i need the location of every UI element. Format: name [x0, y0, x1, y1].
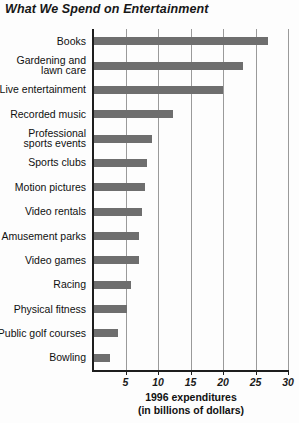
- x-tick-mark: [126, 371, 127, 375]
- x-tick-mark: [288, 371, 289, 375]
- category-label: Racing: [0, 279, 86, 290]
- category-label: Bowling: [0, 352, 86, 363]
- x-tick-label: 20: [217, 376, 229, 388]
- bar: [93, 281, 131, 289]
- gridline: [158, 29, 159, 370]
- bar: [93, 232, 139, 240]
- category-label: Professional sports events: [0, 128, 86, 149]
- category-label: Public golf courses: [0, 328, 86, 339]
- gridline: [223, 29, 224, 370]
- bar: [93, 256, 139, 264]
- x-tick-mark: [158, 371, 159, 375]
- category-label: Physical fitness: [0, 304, 86, 315]
- gridline: [126, 29, 127, 370]
- bar: [93, 159, 147, 167]
- category-label: Video games: [0, 255, 86, 266]
- bar: [93, 208, 142, 216]
- x-tick-label: 5: [123, 376, 129, 388]
- category-axis-labels: BooksGardening and lawn careLive enterta…: [0, 29, 89, 370]
- bar: [93, 37, 268, 45]
- bar: [93, 62, 243, 70]
- gridline: [191, 29, 192, 370]
- category-label: Gardening and lawn care: [0, 55, 86, 76]
- category-label: Video rentals: [0, 206, 86, 217]
- x-tick-mark: [223, 371, 224, 375]
- bar: [93, 135, 152, 143]
- x-tick-label: 30: [282, 376, 294, 388]
- x-tick-label: 15: [185, 376, 197, 388]
- gridline: [288, 29, 289, 370]
- x-axis-caption-line1: 1996 expenditures: [93, 391, 289, 404]
- y-axis-line: [92, 29, 94, 372]
- bar: [93, 183, 145, 191]
- category-label: Amusement parks: [0, 231, 86, 242]
- gridline: [256, 29, 257, 370]
- bar: [93, 305, 127, 313]
- chart-title: What We Spend on Entertainment: [5, 2, 208, 16]
- category-label: Motion pictures: [0, 182, 86, 193]
- plot-area: [93, 29, 288, 370]
- x-tick-mark: [256, 371, 257, 375]
- x-axis-caption-line2: (in billions of dollars): [93, 404, 289, 417]
- x-axis-caption: 1996 expenditures (in billions of dollar…: [93, 391, 289, 417]
- category-label: Recorded music: [0, 109, 86, 120]
- bar: [93, 329, 118, 337]
- x-tick-label: 10: [152, 376, 164, 388]
- category-label: Books: [0, 36, 86, 47]
- category-label: Live entertainment: [0, 84, 86, 95]
- category-label: Sports clubs: [0, 157, 86, 168]
- entertainment-spending-chart: What We Spend on Entertainment BooksGard…: [0, 0, 299, 423]
- x-tick-mark: [191, 371, 192, 375]
- bar: [93, 86, 223, 94]
- bar: [93, 354, 110, 362]
- x-tick-label: 25: [250, 376, 262, 388]
- bar: [93, 110, 173, 118]
